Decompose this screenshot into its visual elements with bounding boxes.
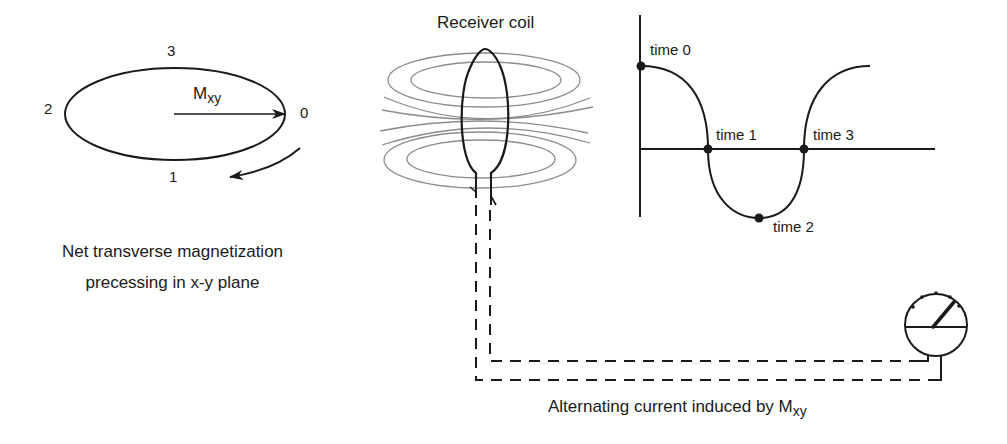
waveform-point-time-2 — [755, 214, 764, 223]
precession-group — [65, 68, 300, 177]
precession-caption-line-2: precessing in x-y plane — [30, 267, 315, 298]
waveform-point-time-1 — [704, 145, 713, 154]
precession-caption-line-1: Net transverse magnetization — [30, 236, 315, 267]
diagram-canvas — [0, 0, 1007, 444]
ammeter-icon — [905, 291, 967, 356]
wire-outer — [476, 205, 928, 380]
receiver-coil-group — [380, 49, 593, 205]
position-label-3: 3 — [167, 42, 175, 59]
waveform-label-time-3: time 3 — [813, 126, 854, 143]
receiver-coil-title: Receiver coil — [437, 13, 534, 33]
waveform-point-time-3 — [800, 145, 809, 154]
position-label-1: 1 — [169, 168, 177, 185]
waveform-label-time-1: time 1 — [716, 126, 757, 143]
rotation-direction-arrow — [230, 148, 300, 177]
position-label-0: 0 — [300, 104, 308, 121]
receiver-coil-loop — [462, 49, 509, 179]
meter-caption: Alternating current induced by Mxy — [548, 397, 807, 417]
precession-caption: Net transverse magnetization precessing … — [30, 236, 315, 298]
magnetic-field-lines — [380, 53, 593, 188]
waveform-label-time-2: time 2 — [773, 218, 814, 235]
wire-inner — [490, 210, 915, 361]
meter-wire-ends — [915, 355, 941, 380]
mxy-vector-label: Mxy — [193, 84, 221, 104]
waveform-label-time-0: time 0 — [650, 41, 691, 58]
waveform-point-time-0 — [637, 62, 646, 71]
position-label-2: 2 — [44, 100, 52, 117]
signal-wires — [476, 205, 928, 380]
